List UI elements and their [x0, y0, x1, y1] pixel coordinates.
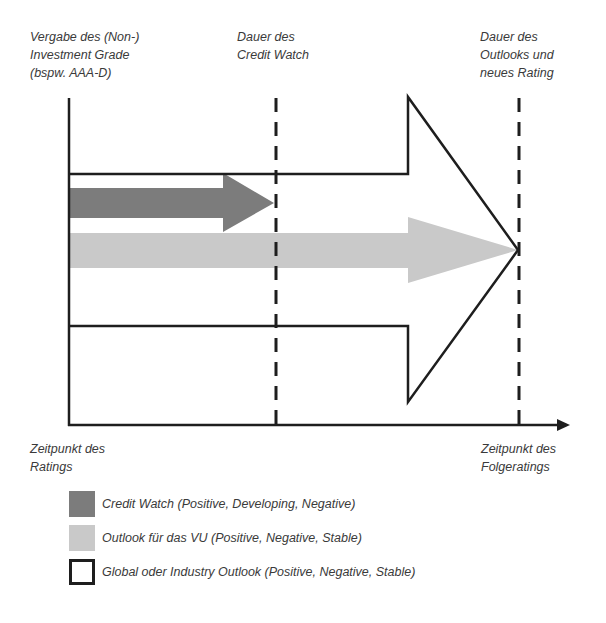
light-gray-swatch-icon [69, 525, 95, 551]
label-rating-time: Zeitpunkt des Ratings [30, 440, 105, 476]
outlook-vu-arrow [69, 217, 518, 283]
label-line: Folgeratings [481, 458, 556, 476]
label-line: Zeitpunkt des [481, 440, 556, 458]
legend-label: Outlook für das VU (Positive, Negative, … [102, 531, 362, 545]
label-line: Ratings [30, 458, 105, 476]
label-follow-rating-time: Zeitpunkt des Folgeratings [481, 440, 556, 476]
label-line: Zeitpunkt des [30, 440, 105, 458]
dark-gray-swatch-icon [69, 491, 95, 517]
credit-watch-arrow [69, 173, 274, 232]
legend-label: Credit Watch (Positive, Developing, Nega… [102, 497, 355, 511]
legend-item-outlook-vu: Outlook für das VU (Positive, Negative, … [69, 525, 362, 551]
time-axis-arrowhead-icon [557, 419, 570, 431]
outline-swatch-icon [69, 559, 95, 585]
legend-label: Global oder Industry Outlook (Positive, … [102, 565, 415, 579]
legend-item-global-outlook: Global oder Industry Outlook (Positive, … [69, 559, 415, 585]
legend-item-credit-watch: Credit Watch (Positive, Developing, Nega… [69, 491, 355, 517]
